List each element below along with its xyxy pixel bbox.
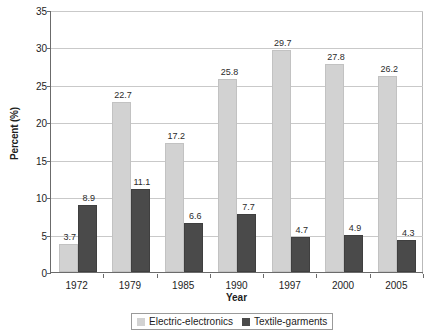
legend-swatch-icon [137,318,145,326]
bar-textile-garments-2000[interactable]: 4.9 [344,235,363,272]
bar-value-label: 6.6 [178,211,212,221]
y-tick-label: 15 [1,155,53,166]
bar-group: 25.87.7 [211,11,264,272]
bar-value-label: 26.2 [372,64,406,74]
bar-value-label: 29.7 [266,38,300,48]
bar-value-label: 7.7 [231,202,265,212]
bar-value-label: 27.8 [319,52,353,62]
bar-textile-garments-2005[interactable]: 4.3 [397,240,416,272]
y-tick-label: 20 [1,118,53,129]
y-tick-label: 10 [1,193,53,204]
plot-area: 051015202530353.78.922.711.117.26.625.87… [50,11,423,273]
y-tick-label: 35 [1,6,53,17]
bar-group: 27.84.9 [317,11,370,272]
x-tick-mark [103,274,104,278]
bar-value-label: 4.9 [338,223,372,233]
y-tick-label: 30 [1,43,53,54]
bar-electric-electronics-1997[interactable]: 29.7 [272,50,291,272]
x-tick-mark [370,274,371,278]
bar-group: 22.711.1 [104,11,157,272]
legend-item-textile-garments[interactable]: Textile-garments [242,316,327,327]
bar-value-label: 22.7 [106,90,140,100]
y-tick-label: 0 [1,268,53,279]
bar-textile-garments-1997[interactable]: 4.7 [291,237,310,272]
bar-textile-garments-1990[interactable]: 7.7 [237,214,256,272]
x-tick-mark [263,274,264,278]
x-tick-mark [157,274,158,278]
x-tick-mark [423,274,424,278]
bar-group: 29.74.7 [264,11,317,272]
legend-item-electric-electronics[interactable]: Electric-electronics [137,316,233,327]
bar-group: 3.78.9 [51,11,104,272]
bar-value-label: 4.3 [391,228,425,238]
bar-value-label: 11.1 [125,177,159,187]
bar-group: 26.24.3 [371,11,424,272]
bar-electric-electronics-1985[interactable]: 17.2 [165,143,184,272]
x-axis-title: Year [50,292,423,303]
bar-textile-garments-1972[interactable]: 8.9 [78,205,97,272]
bar-value-label: 17.2 [159,131,193,141]
legend-label: Electric-electronics [149,316,233,327]
bar-value-label: 4.7 [285,225,319,235]
chart-legend: Electric-electronicsTextile-garments [131,313,333,330]
legend-swatch-icon [242,318,250,326]
bar-electric-electronics-2000[interactable]: 27.8 [325,64,344,272]
y-tick-label: 5 [1,230,53,241]
x-tick-mark [316,274,317,278]
bar-chart: Percent (%) 051015202530353.78.922.711.1… [0,0,428,336]
bar-textile-garments-1979[interactable]: 11.1 [131,189,150,272]
y-tick-label: 25 [1,80,53,91]
bar-electric-electronics-1979[interactable]: 22.7 [112,102,131,272]
bar-value-label: 25.8 [212,67,246,77]
bar-value-label: 8.9 [72,193,106,203]
legend-label: Textile-garments [254,316,327,327]
bar-group: 17.26.6 [158,11,211,272]
bar-textile-garments-1985[interactable]: 6.6 [184,223,203,272]
bar-electric-electronics-2005[interactable]: 26.2 [378,76,397,272]
bar-electric-electronics-1972[interactable]: 3.7 [59,244,78,272]
x-tick-mark [210,274,211,278]
x-category-label-2005: 2005 [361,280,428,291]
bar-electric-electronics-1990[interactable]: 25.8 [218,79,237,272]
